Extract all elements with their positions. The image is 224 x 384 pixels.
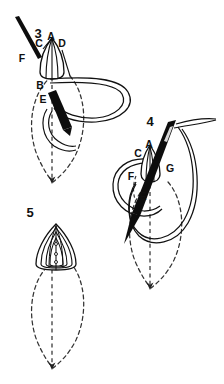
leaf-knot-1-step5	[55, 243, 58, 246]
stitch-diagram-svg: 3 A C D F B E 4	[0, 0, 224, 384]
step-number-5: 5	[26, 205, 33, 220]
point-label-f-step4: F	[128, 170, 135, 182]
point-label-a-step3: A	[47, 30, 55, 42]
point-label-f-step3: F	[19, 52, 26, 64]
point-label-g-step4: G	[166, 162, 174, 174]
point-label-e-step3: E	[39, 93, 46, 105]
canvas-background	[0, 0, 224, 384]
point-label-d-step3: D	[58, 37, 66, 49]
point-label-b-step3: B	[36, 79, 44, 91]
diagram-canvas: 3 A C D F B E 4	[0, 0, 224, 384]
step-number-4: 4	[146, 114, 154, 129]
point-label-c-step3: C	[35, 37, 43, 49]
point-label-e-step4: E	[139, 190, 146, 202]
leaf-knot-2-step5	[55, 253, 58, 256]
leaf-knot-3-step5	[55, 261, 58, 264]
point-label-c-step4: C	[134, 147, 142, 159]
point-label-a-step4: A	[145, 138, 153, 150]
